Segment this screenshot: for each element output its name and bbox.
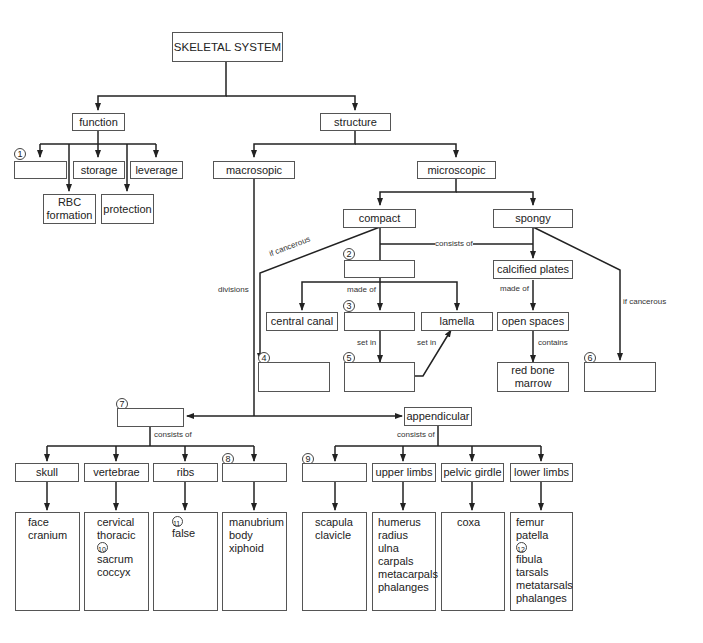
blank-5[interactable]: [344, 362, 415, 392]
list-item: femur: [516, 516, 544, 529]
list-item: patella: [516, 529, 548, 542]
number-2: 2: [343, 248, 355, 260]
blank-8[interactable]: [222, 463, 287, 482]
ribs-list: 11 false: [153, 512, 218, 611]
if-cancerous-spongy-label: if cancerous: [623, 297, 666, 306]
lower-limbs-node: lower limbs: [510, 463, 573, 482]
list-item: false: [172, 527, 195, 540]
list-item: ulna: [378, 542, 399, 555]
structure-node: structure: [320, 113, 391, 131]
list-item: scapula: [315, 516, 353, 529]
list-item: radius: [378, 529, 408, 542]
list-item: sacrum: [97, 553, 133, 566]
list-item: thoracic: [97, 529, 136, 542]
blank-7[interactable]: [117, 408, 184, 427]
rbc-formation-label: RBC formation: [44, 196, 95, 222]
blank-2[interactable]: [344, 260, 415, 278]
root-node: SKELETAL SYSTEM: [172, 32, 283, 62]
upper-limbs-list: humerus radius ulna carpals metacarpals …: [372, 512, 436, 611]
spongy-label: spongy: [515, 212, 550, 225]
contains-label: contains: [538, 338, 568, 347]
list-item: cervical: [97, 516, 134, 529]
lower-limbs-label: lower limbs: [514, 466, 569, 479]
pelvic-girdle-node: pelvic girdle: [441, 463, 504, 482]
function-node: function: [72, 113, 125, 131]
skull-label: skull: [36, 466, 58, 479]
number-12: 12: [516, 542, 527, 553]
set-in-label-1: set in: [357, 338, 376, 347]
central-canal-node: central canal: [266, 312, 338, 331]
list-item: phalanges: [378, 581, 429, 594]
list-item: coxa: [457, 516, 480, 529]
ribs-node: ribs: [153, 463, 218, 482]
red-bone-marrow-label: red bone marrow: [498, 364, 568, 390]
axial-consists-of-label: consists of: [154, 430, 192, 439]
list-item: metatarsals: [516, 579, 573, 592]
number-10-badge: 10: [97, 542, 108, 553]
rbc-formation-node: RBC formation: [43, 194, 96, 224]
vertebrae-label: vertebrae: [93, 466, 139, 479]
list-item: humerus: [378, 516, 421, 529]
lamella-node: lamella: [421, 312, 493, 331]
set-in-label-2: set in: [417, 338, 436, 347]
upper-limbs-label: upper limbs: [376, 466, 433, 479]
appendicular-node: appendicular: [404, 407, 472, 426]
blank-3[interactable]: [344, 312, 415, 331]
list-item: clavicle: [315, 529, 351, 542]
ribs-label: ribs: [177, 466, 195, 479]
lower-limbs-list: femur patella 12 fibula tarsals metatars…: [510, 512, 573, 611]
list-item: body: [229, 529, 253, 542]
calcified-plates-label: calcified plates: [497, 263, 569, 276]
pectoral-list: scapula clavicle: [302, 512, 367, 611]
structure-label: structure: [334, 116, 377, 129]
list-item: metacarpals: [378, 568, 438, 581]
list-item: phalanges: [516, 592, 567, 605]
appendicular-consists-of-label: consists of: [397, 430, 435, 439]
number-10: 10: [97, 542, 108, 553]
consists-of-label: consists of: [435, 239, 473, 248]
pelvic-girdle-list: coxa: [441, 512, 505, 611]
blank-9[interactable]: [302, 463, 367, 482]
blank-1[interactable]: [14, 161, 67, 179]
list-item: manubrium: [229, 516, 284, 529]
made-of-label: made of: [347, 285, 376, 294]
open-spaces-node: open spaces: [497, 312, 569, 331]
macroscopic-label: macrosopic: [226, 164, 282, 177]
calcified-plates-node: calcified plates: [493, 260, 573, 279]
leverage-node: leverage: [130, 161, 183, 179]
open-spaces-label: open spaces: [502, 315, 564, 328]
skull-list: face cranium: [15, 512, 80, 611]
storage-label: storage: [81, 164, 118, 177]
list-item: xiphoid: [229, 542, 264, 555]
compact-node: compact: [343, 209, 416, 228]
list-item: cranium: [28, 529, 67, 542]
appendicular-label: appendicular: [407, 410, 470, 423]
skull-node: skull: [15, 463, 79, 482]
list-item: face: [28, 516, 49, 529]
blank-6[interactable]: [584, 362, 656, 392]
upper-limbs-node: upper limbs: [372, 463, 436, 482]
vertebrae-list: cervical thoracic 10 sacrum coccyx: [84, 512, 149, 611]
compact-label: compact: [359, 212, 401, 225]
protection-label: protection: [103, 203, 151, 216]
number-3: 3: [343, 300, 355, 312]
number-11-badge: 11: [172, 516, 183, 527]
list-item: fibula: [516, 553, 542, 566]
blank-4[interactable]: [258, 362, 330, 392]
red-bone-marrow-node: red bone marrow: [497, 362, 569, 392]
protection-node: protection: [101, 194, 154, 224]
central-canal-label: central canal: [271, 315, 333, 328]
storage-node: storage: [73, 161, 125, 179]
macroscopic-node: macrosopic: [213, 161, 295, 179]
microscopic-node: microscopic: [417, 161, 496, 179]
list-item: tarsals: [516, 566, 548, 579]
list-item: carpals: [378, 555, 413, 568]
root-label: SKELETAL SYSTEM: [174, 41, 281, 54]
lamella-label: lamella: [440, 315, 475, 328]
vertebrae-node: vertebrae: [84, 463, 149, 482]
number-12-badge: 12: [516, 542, 527, 553]
pelvic-girdle-label: pelvic girdle: [443, 466, 501, 479]
microscopic-label: microscopic: [427, 164, 485, 177]
number-11: 11: [172, 516, 183, 527]
edge-root-structure: [226, 96, 355, 110]
